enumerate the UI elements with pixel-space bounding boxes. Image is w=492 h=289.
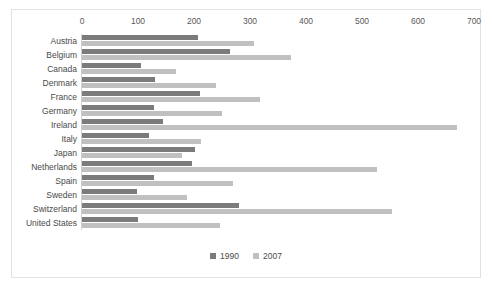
bar-2007-switzerland: [82, 209, 392, 214]
bar-1990-belgium: [82, 49, 230, 54]
bar-1990-germany: [82, 105, 154, 110]
bar-1990-canada: [82, 63, 141, 68]
axis-tick-label: 500: [355, 16, 369, 26]
bar-group: [82, 76, 480, 90]
bar-1990-japan: [82, 147, 195, 152]
bar-2007-denmark: [82, 83, 216, 88]
chart-row: Switzerland: [12, 202, 480, 216]
chart-row: Italy: [12, 132, 480, 146]
legend-swatch-icon: [210, 253, 216, 259]
bar-1990-denmark: [82, 77, 155, 82]
category-label: Austria: [12, 34, 77, 48]
chart-row: United States: [12, 216, 480, 230]
axis-tick-label: 400: [299, 16, 313, 26]
axis-tick-label: 700: [467, 16, 481, 26]
legend-label: 1990: [220, 251, 239, 261]
axis-tick-label: 300: [243, 16, 257, 26]
bar-group: [82, 48, 480, 62]
axis-tick-label: 200: [187, 16, 201, 26]
bar-group: [82, 146, 480, 160]
chart-row: Germany: [12, 104, 480, 118]
bar-1990-spain: [82, 175, 154, 180]
chart-row: France: [12, 90, 480, 104]
chart-row: Ireland: [12, 118, 480, 132]
bar-1990-italy: [82, 133, 149, 138]
category-label: Spain: [12, 174, 77, 188]
bar-group: [82, 216, 480, 230]
bar-group: [82, 104, 480, 118]
bar-2007-germany: [82, 111, 222, 116]
category-label: Switzerland: [12, 202, 77, 216]
chart-row: Spain: [12, 174, 480, 188]
category-label: Netherlands: [12, 160, 77, 174]
bar-2007-ireland: [82, 125, 457, 130]
chart-row: Japan: [12, 146, 480, 160]
bar-group: [82, 160, 480, 174]
bar-group: [82, 202, 480, 216]
bar-1990-france: [82, 91, 200, 96]
category-label: Japan: [12, 146, 77, 160]
chart-row: Belgium: [12, 48, 480, 62]
chart-row: Austria: [12, 34, 480, 48]
category-label: Germany: [12, 104, 77, 118]
bar-2007-france: [82, 97, 260, 102]
chart-frame: 0100200300400500600700 AustriaBelgiumCan…: [11, 9, 481, 278]
bar-2007-united-states: [82, 223, 220, 228]
axis-tick-label: 600: [411, 16, 425, 26]
bar-group: [82, 188, 480, 202]
bar-2007-sweden: [82, 195, 187, 200]
bar-group: [82, 174, 480, 188]
category-label: Belgium: [12, 48, 77, 62]
chart-legend: 19902007: [12, 251, 480, 261]
bar-group: [82, 90, 480, 104]
bar-2007-canada: [82, 69, 176, 74]
category-label: Canada: [12, 62, 77, 76]
plot-area: AustriaBelgiumCanadaDenmarkFranceGermany…: [12, 34, 480, 230]
bar-1990-switzerland: [82, 203, 239, 208]
chart-row: Sweden: [12, 188, 480, 202]
chart-row: Canada: [12, 62, 480, 76]
bar-group: [82, 62, 480, 76]
chart-row: Denmark: [12, 76, 480, 90]
bar-1990-netherlands: [82, 161, 192, 166]
bar-2007-belgium: [82, 55, 291, 60]
legend-item-2007[interactable]: 2007: [253, 251, 282, 261]
category-label: Sweden: [12, 188, 77, 202]
chart-row: Netherlands: [12, 160, 480, 174]
category-label: Italy: [12, 132, 77, 146]
bar-2007-spain: [82, 181, 233, 186]
category-label: United States: [12, 216, 77, 230]
bar-2007-italy: [82, 139, 201, 144]
bar-1990-austria: [82, 35, 198, 40]
bar-2007-netherlands: [82, 167, 377, 172]
bar-2007-austria: [82, 41, 254, 46]
bar-group: [82, 34, 480, 48]
axis-tick-label: 0: [80, 16, 85, 26]
value-axis-tick-labels: 0100200300400500600700: [12, 16, 480, 30]
bar-1990-ireland: [82, 119, 163, 124]
legend-item-1990[interactable]: 1990: [210, 251, 239, 261]
legend-label: 2007: [263, 251, 282, 261]
category-label: Denmark: [12, 76, 77, 90]
legend-swatch-icon: [253, 253, 259, 259]
bar-group: [82, 118, 480, 132]
bar-2007-japan: [82, 153, 182, 158]
category-label: Ireland: [12, 118, 77, 132]
bar-1990-sweden: [82, 189, 137, 194]
axis-tick-label: 100: [131, 16, 145, 26]
bar-group: [82, 132, 480, 146]
category-label: France: [12, 90, 77, 104]
bar-1990-united-states: [82, 217, 138, 222]
